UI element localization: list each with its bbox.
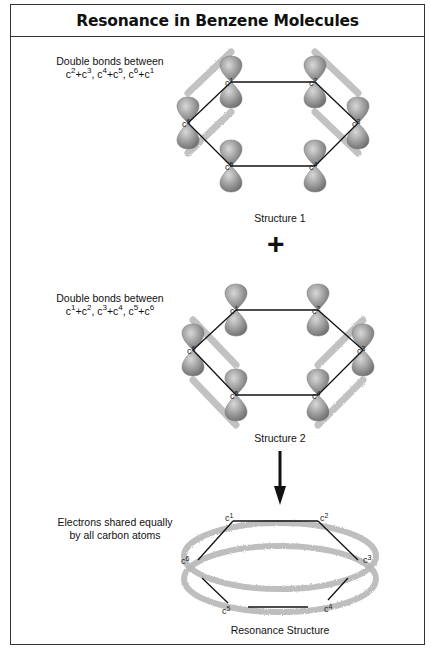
resonance-atom-label-c5: c5 (222, 605, 231, 616)
resonance-atom-label-c4: c4 (324, 603, 333, 614)
structure1-c5-lower-lobe (220, 166, 242, 192)
structure2-c6-lower-lobe (182, 350, 204, 376)
resonance-atom-label-c2: c2 (320, 512, 329, 523)
resonance-molecule: c1c2c3c4c5c6 (181, 512, 376, 616)
down-arrow-icon (274, 451, 286, 505)
structure2-c3-lower-lobe (352, 350, 374, 376)
molecule-drawings: c1c2c3c4c5c6 c1c2c3c4c5c6 c1c2c3c4c5c6 (0, 0, 431, 651)
structure2-c1-lower-lobe (225, 310, 247, 336)
structure2-c5-lower-lobe (225, 395, 247, 421)
structure1-c3-lower-lobe (347, 123, 369, 149)
structure2-molecule: c1c2c3c4c5c6 (182, 280, 374, 425)
structure1-c2-lower-lobe (304, 82, 326, 108)
structure1-c4-lower-lobe (304, 166, 326, 192)
structure1-molecule: c1c2c3c4c5c6 (177, 52, 369, 196)
structure2-c2-lower-lobe (307, 310, 329, 336)
structure2-c4-lower-lobe (307, 395, 329, 421)
structure1-c1-lower-lobe (220, 82, 242, 108)
structure1-c6-lower-lobe (177, 123, 199, 149)
